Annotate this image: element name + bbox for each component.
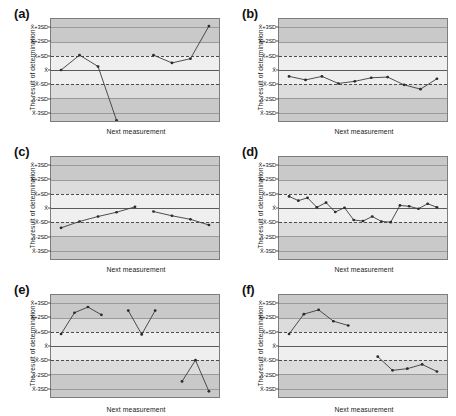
y-tick-mark bbox=[276, 84, 279, 85]
plot-area bbox=[50, 156, 220, 260]
y-tick-mark bbox=[276, 26, 279, 27]
plot-area-wrap: X̄+3SDX̄+2SDX̄+SDX̄X̄-SDX̄-2SDX̄-3SD bbox=[278, 294, 448, 398]
panel-e: (e)The result of determinationX̄+3SDX̄+2… bbox=[0, 276, 228, 416]
y-axis-ticks: X̄+3SDX̄+2SDX̄+SDX̄X̄-SDX̄-2SDX̄-3SD bbox=[230, 156, 278, 260]
data-point bbox=[403, 84, 406, 87]
data-point bbox=[171, 214, 174, 217]
y-tick-mark bbox=[48, 208, 51, 209]
series-line bbox=[61, 55, 116, 120]
data-series-layer bbox=[279, 157, 447, 259]
data-point bbox=[171, 62, 174, 65]
y-tick-mark bbox=[48, 374, 51, 375]
x-axis-title: Next measurement bbox=[50, 128, 222, 135]
series-line bbox=[128, 311, 155, 335]
y-tick-mark bbox=[276, 55, 279, 56]
y-tick-mark bbox=[48, 84, 51, 85]
figure-levey-jennings-grid: (a)The result of determinationX̄+3SDX̄+2… bbox=[0, 0, 456, 416]
y-tick-mark bbox=[48, 55, 51, 56]
y-tick-label: X̄-2SD bbox=[32, 96, 48, 102]
data-point bbox=[321, 75, 324, 78]
y-tick-label: X̄-2SD bbox=[260, 234, 276, 240]
y-tick-mark bbox=[276, 389, 279, 390]
y-tick-mark bbox=[276, 374, 279, 375]
y-tick-mark bbox=[276, 179, 279, 180]
panel-b: (b)The result of determinationX̄+3SDX̄+2… bbox=[228, 0, 456, 138]
series-line bbox=[61, 307, 101, 334]
data-series-layer bbox=[51, 157, 219, 259]
data-point bbox=[380, 220, 383, 223]
plot-area bbox=[278, 18, 448, 122]
y-tick-label: X̄+3SD bbox=[259, 24, 276, 30]
data-point bbox=[134, 206, 137, 209]
data-point bbox=[421, 363, 424, 366]
plot-area-wrap: X̄+3SDX̄+2SDX̄+SDX̄X̄-SDX̄-2SDX̄-3SD bbox=[50, 18, 220, 122]
y-tick-mark bbox=[48, 41, 51, 42]
data-point bbox=[97, 65, 100, 68]
y-tick-label: X̄+3SD bbox=[259, 300, 276, 306]
data-point bbox=[288, 195, 291, 198]
data-point bbox=[406, 367, 409, 370]
y-tick-mark bbox=[276, 360, 279, 361]
data-point bbox=[435, 206, 438, 209]
data-series-layer bbox=[279, 19, 447, 121]
x-axis-title: Next measurement bbox=[50, 406, 222, 413]
y-tick-mark bbox=[48, 179, 51, 180]
plot-area bbox=[278, 294, 448, 398]
data-point bbox=[337, 82, 340, 85]
data-point bbox=[100, 314, 103, 317]
series-line bbox=[289, 310, 348, 334]
y-tick-label: X̄-SD bbox=[35, 357, 48, 363]
y-tick-mark bbox=[276, 317, 279, 318]
data-point bbox=[207, 224, 210, 227]
data-point bbox=[399, 204, 402, 207]
series-line bbox=[289, 196, 437, 222]
y-tick-label: X̄+3SD bbox=[31, 24, 48, 30]
data-point bbox=[325, 201, 328, 204]
y-tick-mark bbox=[276, 164, 279, 165]
y-tick-label: X̄-SD bbox=[263, 219, 276, 225]
data-point bbox=[347, 324, 350, 327]
series-line bbox=[289, 76, 437, 89]
data-point bbox=[181, 380, 184, 383]
y-tick-label: X̄+SD bbox=[34, 53, 48, 59]
data-point bbox=[60, 227, 63, 230]
data-point bbox=[60, 69, 63, 72]
data-point bbox=[334, 211, 337, 214]
y-tick-label: X̄+SD bbox=[262, 53, 276, 59]
y-axis-ticks: X̄+3SDX̄+2SDX̄+SDX̄X̄-SDX̄-2SDX̄-3SD bbox=[230, 18, 278, 122]
data-point bbox=[288, 333, 291, 336]
y-tick-mark bbox=[276, 302, 279, 303]
data-point bbox=[419, 88, 422, 91]
data-point bbox=[127, 309, 130, 312]
y-tick-label: X̄-3SD bbox=[260, 110, 276, 116]
data-point bbox=[306, 196, 309, 199]
y-tick-label: X̄-3SD bbox=[32, 110, 48, 116]
data-point bbox=[370, 76, 373, 79]
data-point bbox=[315, 206, 318, 209]
y-tick-mark bbox=[276, 98, 279, 99]
y-tick-label: X̄+2SD bbox=[31, 314, 48, 320]
y-tick-label: X̄-2SD bbox=[260, 96, 276, 102]
data-point bbox=[352, 219, 355, 222]
data-point bbox=[288, 75, 291, 78]
y-axis-ticks: X̄+3SDX̄+2SDX̄+SDX̄X̄-SDX̄-2SDX̄-3SD bbox=[230, 294, 278, 398]
y-tick-mark bbox=[276, 70, 279, 71]
data-point bbox=[391, 369, 394, 372]
y-axis-ticks: X̄+3SDX̄+2SDX̄+SDX̄X̄-SDX̄-2SDX̄-3SD bbox=[2, 156, 50, 260]
data-point bbox=[417, 207, 420, 210]
data-point bbox=[332, 320, 335, 323]
data-point bbox=[343, 206, 346, 209]
data-point bbox=[376, 355, 379, 358]
y-tick-mark bbox=[48, 222, 51, 223]
y-tick-label: X̄+2SD bbox=[259, 38, 276, 44]
data-point bbox=[154, 309, 157, 312]
y-tick-label: X̄+2SD bbox=[259, 176, 276, 182]
y-tick-mark bbox=[276, 251, 279, 252]
data-series-layer bbox=[51, 19, 219, 121]
y-tick-label: X̄+2SD bbox=[31, 38, 48, 44]
y-tick-mark bbox=[48, 98, 51, 99]
data-point bbox=[115, 119, 118, 122]
data-series-layer bbox=[279, 295, 447, 397]
panel-f: (f)The result of determinationX̄+3SDX̄+2… bbox=[228, 276, 456, 416]
series-line bbox=[182, 360, 209, 391]
